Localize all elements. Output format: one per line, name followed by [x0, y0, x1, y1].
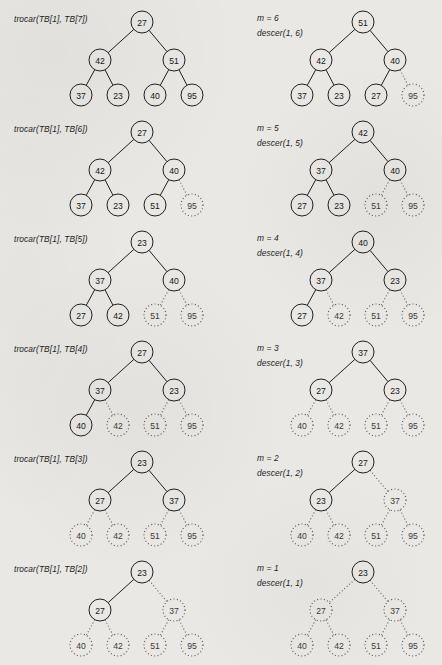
- tree-node: 42: [310, 49, 332, 71]
- tree-edge-removed: [400, 510, 408, 525]
- tree-node: 51: [163, 49, 185, 71]
- tree-node: 23: [384, 269, 406, 291]
- node-label: 51: [371, 311, 381, 321]
- node-label: 23: [334, 91, 344, 101]
- tree-node: 42: [89, 49, 111, 71]
- tree-edge: [108, 249, 134, 272]
- node-label: 37: [95, 386, 105, 396]
- tree-node-removed: 95: [402, 304, 424, 326]
- tree-edge-removed: [179, 400, 187, 415]
- tree-edge: [370, 360, 388, 381]
- tree-edge-removed: [381, 510, 390, 526]
- tree-edge: [108, 469, 134, 492]
- node-label: 42: [334, 311, 344, 321]
- node-label: 23: [137, 568, 147, 578]
- node-label: 27: [137, 128, 147, 138]
- tree-node-removed: 95: [402, 524, 424, 546]
- tree-edge-removed: [179, 180, 187, 195]
- binary-tree-graphic: 40372327425195: [221, 220, 442, 330]
- tree-panel: trocar(TB[1], TB[2])23273740425195: [0, 550, 221, 660]
- tree-node-removed: 40: [291, 414, 313, 436]
- tree-node-removed: 51: [144, 304, 166, 326]
- node-label: 42: [95, 56, 105, 66]
- node-label: 37: [95, 276, 105, 286]
- tree-edge-removed: [307, 400, 316, 416]
- tree-node: 42: [352, 121, 374, 143]
- tree-node: 37: [70, 194, 92, 216]
- tree-edge: [149, 140, 167, 161]
- node-label: 40: [297, 421, 307, 431]
- tree-edge-removed: [400, 400, 408, 415]
- node-label: 40: [297, 531, 307, 541]
- node-label: 51: [150, 311, 160, 321]
- node-label: 23: [113, 201, 123, 211]
- node-label: 27: [316, 606, 326, 616]
- tree-node-removed: 95: [402, 194, 424, 216]
- tree-node-removed: 37: [163, 599, 185, 621]
- node-label: 42: [113, 641, 123, 651]
- tree-node-removed: 40: [291, 524, 313, 546]
- tree-node: 40: [70, 414, 92, 436]
- tree-node-removed: 51: [365, 194, 387, 216]
- tree-edge: [86, 400, 95, 416]
- node-label: 37: [316, 166, 326, 176]
- node-label: 95: [187, 421, 197, 431]
- tree-edge: [329, 139, 355, 162]
- tree-node: 37: [89, 269, 111, 291]
- node-label: 40: [390, 56, 400, 66]
- node-label: 95: [187, 531, 197, 541]
- tree-edge-removed: [179, 510, 187, 525]
- node-label: 42: [113, 531, 123, 541]
- node-label: 51: [358, 18, 368, 28]
- tree-edge-removed: [381, 290, 390, 306]
- tree-edge-removed: [381, 400, 390, 416]
- tree-edge: [86, 180, 95, 196]
- tree-panel: m = 6descer(1, 6)51424037232795: [221, 0, 442, 110]
- node-label: 23: [334, 201, 344, 211]
- node-label: 42: [113, 311, 123, 321]
- tree-edge: [370, 250, 388, 271]
- node-label: 37: [358, 348, 368, 358]
- node-label: 40: [150, 91, 160, 101]
- tree-edge: [108, 139, 134, 162]
- tree-node: 42: [89, 159, 111, 181]
- tree-edge: [105, 290, 113, 305]
- binary-tree-graphic: 23273740425195: [0, 550, 221, 660]
- node-label: 95: [408, 311, 418, 321]
- binary-tree-graphic: 23273740425195: [0, 440, 221, 550]
- node-label: 95: [408, 641, 418, 651]
- tree-node-removed: 40: [70, 634, 92, 656]
- tree-edge-removed: [160, 290, 169, 306]
- node-label: 23: [113, 91, 123, 101]
- tree-edge-removed: [381, 180, 390, 196]
- node-label: 27: [297, 201, 307, 211]
- node-label: 51: [371, 641, 381, 651]
- tree-edge: [329, 469, 355, 492]
- tree-node-removed: 40: [291, 634, 313, 656]
- tree-node-removed: 42: [107, 414, 129, 436]
- tree-edge-removed: [307, 510, 316, 526]
- tree-edge: [105, 180, 113, 195]
- tree-node-removed: 51: [365, 414, 387, 436]
- node-label: 95: [408, 531, 418, 541]
- tree-edge: [381, 70, 390, 86]
- tree-node: 27: [70, 304, 92, 326]
- tree-edge-removed: [105, 400, 113, 415]
- tree-node: 27: [291, 304, 313, 326]
- tree-node-removed: 95: [181, 634, 203, 656]
- tree-panel: trocar(TB[1], TB[6])27424037235195: [0, 110, 221, 220]
- tree-edge: [108, 579, 134, 602]
- tree-node-removed: 27: [310, 599, 332, 621]
- node-label: 37: [169, 606, 179, 616]
- tree-node: 37: [291, 84, 313, 106]
- tree-edge-removed: [307, 620, 316, 636]
- tree-panel: m = 2descer(1, 2)27233740425195: [221, 440, 442, 550]
- node-label: 23: [390, 386, 400, 396]
- tree-edge: [370, 140, 388, 161]
- tree-edge-removed: [105, 620, 113, 635]
- tree-node-removed: 42: [107, 634, 129, 656]
- tree-node-removed: 51: [144, 414, 166, 436]
- tree-edge: [149, 470, 167, 491]
- node-label: 51: [371, 201, 381, 211]
- node-label: 42: [316, 56, 326, 66]
